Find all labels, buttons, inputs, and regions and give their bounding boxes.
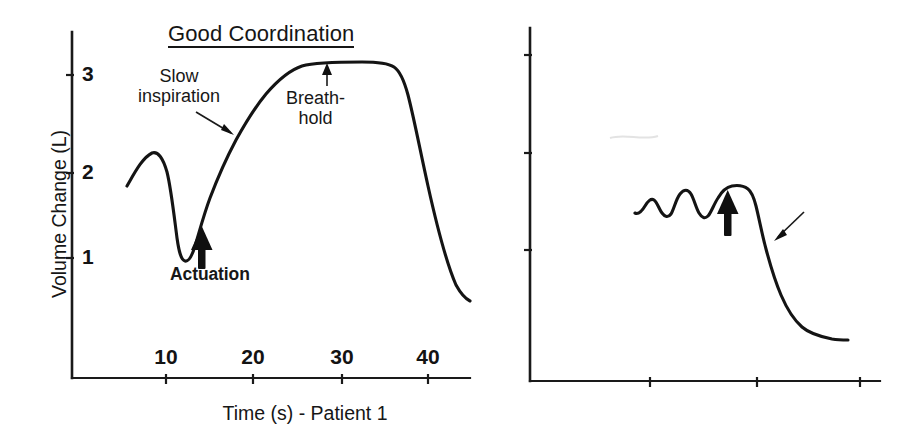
chart-panel-good-coordination: Good Coordination Volume Change (L) Time… <box>0 0 470 442</box>
slow-inspiration-arrow <box>196 112 234 135</box>
annotation-actuation-good: Actuation <box>170 265 250 285</box>
annotation-slow-inspiration-line2: inspiration <box>138 86 220 106</box>
breath-hold-arrow <box>322 63 332 86</box>
poor-coordination-plot <box>460 0 915 442</box>
annotation-breath-hold: Breath- hold <box>286 88 345 128</box>
x-tick-label-30-good: 30 <box>322 345 362 369</box>
x-tick-label-10-good: 10 <box>146 345 186 369</box>
x-tick-label-20-good: 20 <box>233 345 273 369</box>
x-axis-label-good: Time (s) - Patient 1 <box>170 402 440 425</box>
y-axis-label-good: Volume Change (L) <box>48 130 71 298</box>
actuation-arrow-good <box>191 226 213 269</box>
figure-container: Good Coordination Volume Change (L) Time… <box>0 0 915 442</box>
y-tick-label-2-good: 2 <box>82 160 94 184</box>
annotation-slow-inspiration: Slow inspiration <box>138 66 220 106</box>
y-tick-label-1-good: 1 <box>82 245 94 269</box>
annotation-slow-inspiration-line1: Slow <box>138 66 220 86</box>
y-tick-label-3-good: 3 <box>82 62 94 86</box>
scan-artifact-smudge <box>610 136 658 138</box>
annotation-breath-hold-line1: Breath- <box>286 88 345 108</box>
chart-panel-poor-coordination: Poor Coordination Volume Change (L) Time… <box>460 0 915 442</box>
x-tick-label-40-good: 40 <box>408 345 448 369</box>
chart-title-good: Good Coordination <box>168 22 354 48</box>
annotation-breath-hold-line2: hold <box>286 108 345 128</box>
volume-curve-poor <box>635 186 848 340</box>
exhalation-arrow <box>774 212 804 241</box>
